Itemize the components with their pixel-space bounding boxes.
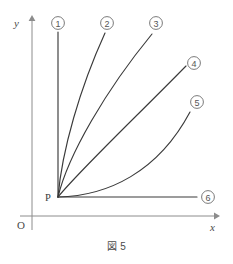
marker-label-5: 5 xyxy=(194,98,199,108)
y-axis-label: y xyxy=(13,17,19,29)
marker-6: 6 xyxy=(202,191,215,204)
marker-3: 3 xyxy=(150,17,163,30)
figure-diagram: y x O P 1 2 3 4 5 xyxy=(0,0,233,264)
marker-5: 5 xyxy=(191,96,204,109)
origin-label: O xyxy=(17,219,25,231)
marker-1: 1 xyxy=(52,17,65,30)
marker-label-4: 4 xyxy=(191,59,196,69)
marker-label-2: 2 xyxy=(104,19,109,29)
x-axis-arrow-icon xyxy=(214,213,220,220)
marker-label-1: 1 xyxy=(55,19,60,29)
marker-label-3: 3 xyxy=(153,19,158,29)
curve-5 xyxy=(58,112,190,197)
y-axis-arrow-icon xyxy=(29,15,36,21)
point-p-label: P xyxy=(45,192,51,203)
figure-caption: 図 5 xyxy=(0,238,233,253)
x-axis-label: x xyxy=(209,221,215,233)
marker-label-6: 6 xyxy=(205,193,210,203)
marker-4: 4 xyxy=(188,57,201,70)
curve-4 xyxy=(58,66,186,197)
x-axis xyxy=(20,213,220,220)
figure-container: y x O P 1 2 3 4 5 xyxy=(0,0,233,264)
curve-2 xyxy=(58,33,105,197)
marker-2: 2 xyxy=(101,17,114,30)
y-axis xyxy=(29,15,36,230)
